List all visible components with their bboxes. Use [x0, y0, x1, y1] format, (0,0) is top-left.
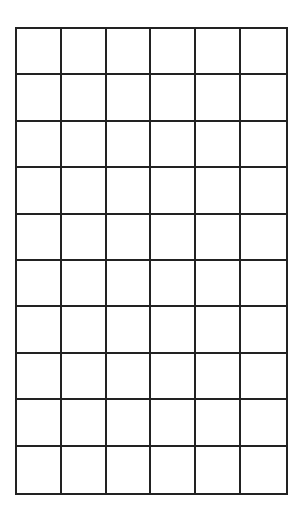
- grid-cell: [62, 261, 107, 307]
- grid-cell: [196, 307, 241, 353]
- grid-cell: [107, 29, 152, 75]
- grid-cell: [196, 354, 241, 400]
- grid-cell: [151, 122, 196, 168]
- grid-cell: [151, 215, 196, 261]
- grid-cell: [107, 400, 152, 446]
- grid-cell: [62, 168, 107, 214]
- grid-cell: [17, 29, 62, 75]
- grid-cell: [17, 215, 62, 261]
- grid-cell: [196, 122, 241, 168]
- grid-cell: [107, 168, 152, 214]
- grid-cell: [151, 447, 196, 493]
- grid-cell: [17, 354, 62, 400]
- grid-cell: [241, 168, 286, 214]
- grid-cell: [17, 261, 62, 307]
- grid-cell: [241, 122, 286, 168]
- grid-cell: [62, 447, 107, 493]
- grid-cell: [196, 447, 241, 493]
- grid-cell: [62, 215, 107, 261]
- grid-cell: [241, 307, 286, 353]
- grid-cell: [107, 75, 152, 121]
- grid-cell: [62, 75, 107, 121]
- grid-cell: [196, 400, 241, 446]
- grid-cell: [17, 447, 62, 493]
- grid-cell: [17, 75, 62, 121]
- grid-cell: [151, 261, 196, 307]
- grid-cell: [241, 261, 286, 307]
- grid-cell: [151, 354, 196, 400]
- grid-cell: [62, 400, 107, 446]
- grid-cell: [17, 307, 62, 353]
- grid-cell: [151, 168, 196, 214]
- grid-cell: [62, 354, 107, 400]
- grid-cell: [196, 75, 241, 121]
- grid-cell: [62, 29, 107, 75]
- grid-cell: [241, 447, 286, 493]
- grid-cell: [241, 400, 286, 446]
- grid-cell: [62, 122, 107, 168]
- grid-cell: [196, 168, 241, 214]
- grid-cell: [196, 215, 241, 261]
- grid-cell: [17, 168, 62, 214]
- grid-cell: [241, 215, 286, 261]
- grid-cell: [62, 307, 107, 353]
- grid-cell: [107, 447, 152, 493]
- grid-cell: [17, 400, 62, 446]
- grid-cell: [196, 261, 241, 307]
- grid-cell: [107, 307, 152, 353]
- grid-cell: [151, 307, 196, 353]
- grid-cell: [241, 29, 286, 75]
- grid-cell: [107, 261, 152, 307]
- grid-cell: [107, 215, 152, 261]
- grid-cell: [151, 400, 196, 446]
- grid-cell: [17, 122, 62, 168]
- grid-cell: [107, 354, 152, 400]
- grid-cell: [241, 75, 286, 121]
- grid-cell: [107, 122, 152, 168]
- grid-cell: [196, 29, 241, 75]
- grid-cell: [151, 29, 196, 75]
- empty-grid: [15, 27, 288, 495]
- grid-cell: [241, 354, 286, 400]
- grid-cell: [151, 75, 196, 121]
